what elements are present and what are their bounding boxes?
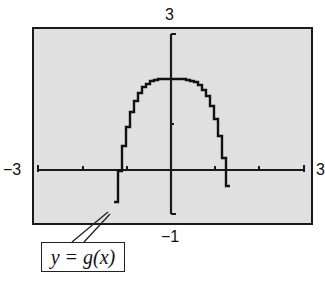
- callout-leader: [72, 212, 110, 242]
- callout-text: y = g(x): [51, 246, 116, 269]
- xmax-label: 3: [316, 162, 325, 178]
- ymax-label: 3: [165, 7, 174, 23]
- ymin-label: −1: [161, 229, 179, 245]
- xmin-label: −3: [3, 162, 21, 178]
- function-label-callout: y = g(x): [41, 242, 125, 272]
